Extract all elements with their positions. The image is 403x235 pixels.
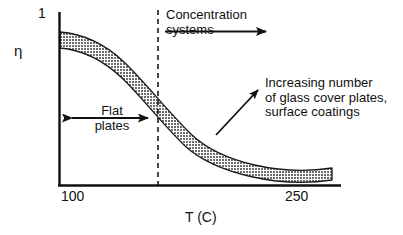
x-axis-title: T (C) xyxy=(185,210,217,226)
flat-plates-annotation: Flat plates xyxy=(84,104,140,133)
increasing-annotation-line-1: Increasing number xyxy=(265,76,387,91)
solar-collector-efficiency-figure: 1 η 100 250 T (C) Concentration systems … xyxy=(0,0,403,235)
x-axis-tick-label-right: 250 xyxy=(285,189,308,205)
y-axis-title: η xyxy=(14,43,22,60)
flat-plates-annotation-line-1: Flat xyxy=(84,104,140,119)
y-axis-max-label: 1 xyxy=(38,6,46,22)
increasing-annotation-line-3: surface coatings xyxy=(265,105,387,120)
increasing-annotation-line-2: of glass cover plates, xyxy=(265,91,387,106)
flat-plates-annotation-line-2: plates xyxy=(84,119,140,134)
concentration-annotation-line-2: systems xyxy=(166,23,247,38)
concentration-systems-annotation: Concentration systems xyxy=(166,8,247,37)
concentration-annotation-line-1: Concentration xyxy=(166,8,247,23)
increasing-pointer-arrow xyxy=(216,90,258,135)
increasing-cover-plates-annotation: Increasing number of glass cover plates,… xyxy=(265,76,387,120)
x-axis-tick-label-left: 100 xyxy=(61,189,84,205)
